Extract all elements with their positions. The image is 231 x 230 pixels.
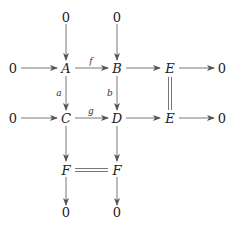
node-D: D (112, 112, 122, 125)
node-F-left: F (61, 164, 70, 177)
node-zero-right-e1: 0 (218, 62, 226, 75)
node-F-right: F (112, 164, 121, 177)
node-E-bottom: E (165, 112, 175, 125)
label-g: g (88, 107, 94, 116)
commutative-diagram: 0 0 0 A B E 0 0 C D E 0 F F 0 0 f g a b (0, 0, 231, 230)
label-f: f (89, 57, 92, 66)
node-zero-left-a: 0 (9, 62, 17, 75)
label-a: a (56, 89, 61, 98)
label-b: b (107, 89, 113, 98)
node-zero-top-a: 0 (62, 11, 70, 24)
node-E-top: E (165, 62, 175, 75)
node-zero-right-e2: 0 (218, 112, 226, 125)
node-zero-bottom-f2: 0 (113, 206, 121, 219)
node-C: C (61, 112, 71, 125)
node-A: A (61, 62, 70, 75)
node-zero-bottom-f1: 0 (62, 206, 70, 219)
node-zero-top-b: 0 (113, 11, 121, 24)
node-B: B (112, 62, 122, 75)
node-zero-left-c: 0 (9, 112, 17, 125)
